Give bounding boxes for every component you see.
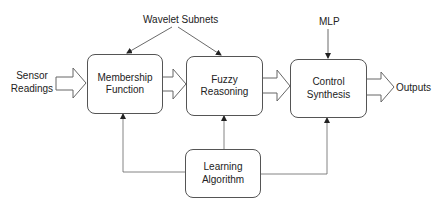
control-synthesis-text: Control Synthesis	[291, 76, 366, 101]
control-to-outputs-block-arrow	[366, 72, 394, 102]
fuzzy-reasoning-block: Fuzzy Reasoning	[186, 56, 263, 116]
wavelet-to-fuzzy-line	[178, 27, 221, 55]
outputs-label: Outputs	[396, 82, 431, 95]
sensor-readings-label: Sensor Readings	[7, 70, 57, 95]
learning-line1: Learning	[202, 161, 244, 174]
membership-line1: Membership	[97, 72, 152, 85]
membership-line2: Function	[97, 84, 152, 97]
learning-algorithm-block: Learning Algorithm	[185, 149, 261, 198]
membership-function-block: Membership Function	[87, 54, 163, 114]
wavelet-to-membership-line	[127, 27, 172, 53]
learning-line2: Algorithm	[202, 174, 244, 187]
control-synthesis-block: Control Synthesis	[290, 59, 367, 118]
sensor-label-line2: Readings	[7, 83, 57, 96]
learning-to-control-line	[260, 118, 327, 174]
membership-to-fuzzy-block-arrow	[162, 69, 186, 99]
fuzzy-to-control-block-arrow	[262, 70, 290, 101]
mlp-label: MLP	[319, 16, 340, 29]
learning-to-membership-line	[123, 114, 185, 172]
wavelet-subnets-label: Wavelet Subnets	[143, 14, 218, 27]
fuzzy-reasoning-text: Fuzzy Reasoning	[187, 74, 262, 99]
sensor-block-arrow	[56, 68, 86, 98]
sensor-label-line1: Sensor	[7, 70, 57, 83]
